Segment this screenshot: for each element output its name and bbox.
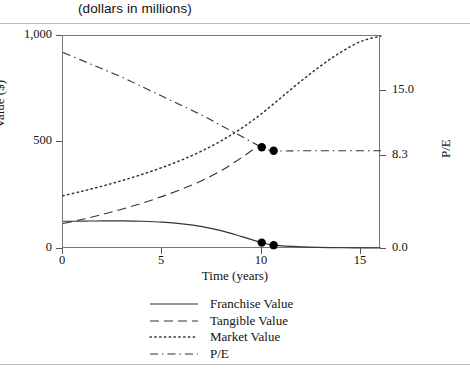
y2-tick-15: [380, 90, 386, 91]
plot-area: [62, 35, 380, 248]
series-line-market-value: [63, 36, 381, 196]
legend-item-franchise-value: Franchise Value: [148, 296, 293, 313]
chart-figure: (dollars in millions) 1,000 500 0 15.0 8…: [0, 0, 470, 371]
x-axis-label: Time (years): [0, 268, 470, 284]
y-ticklabel-1000: 1,000: [0, 27, 52, 42]
legend-item-pe: P/E: [148, 346, 293, 363]
y2-tick-83: [380, 155, 386, 156]
legend-swatch-dotted-icon: [148, 330, 200, 344]
y2-tick-0: [380, 248, 386, 249]
y2-axis-label: P/E: [438, 139, 454, 158]
y2-ticklabel-0: 0.0: [392, 240, 408, 255]
legend-swatch-dashed-icon: [148, 314, 200, 328]
y2-ticklabel-83: 8.3: [392, 147, 408, 162]
bottom-divider: [0, 364, 470, 365]
legend-label-market-value: Market Value: [210, 329, 280, 345]
x-ticklabel-15: 15: [340, 253, 380, 268]
y-tick-1000: [56, 35, 62, 36]
data-point-franchise-marker-2: [269, 241, 277, 249]
x-ticklabel-0: 0: [42, 253, 82, 268]
legend-label-franchise-value: Franchise Value: [210, 296, 293, 312]
plot-lines: [63, 36, 381, 249]
series-line-franchise-value: [63, 221, 381, 248]
y2-ticklabel-15: 15.0: [392, 82, 414, 97]
chart-title: (dollars in millions): [78, 1, 192, 16]
top-divider: [0, 23, 470, 24]
legend-item-market-value: Market Value: [148, 329, 293, 346]
chart-legend: Franchise Value Tangible Value Market Va…: [148, 296, 293, 362]
y-tick-500: [56, 141, 62, 142]
x-ticklabel-10: 10: [241, 253, 281, 268]
y-axis-label: Value ($): [0, 80, 8, 128]
data-point-pe-marker-2: [269, 147, 277, 155]
series-line-p-e: [63, 53, 381, 151]
data-point-pe-marker-1: [258, 143, 266, 151]
legend-swatch-solid-icon: [148, 297, 200, 311]
x-ticklabel-5: 5: [141, 253, 181, 268]
legend-label-tangible-value: Tangible Value: [210, 313, 288, 329]
legend-item-tangible-value: Tangible Value: [148, 313, 293, 330]
legend-label-pe: P/E: [210, 346, 229, 362]
y-ticklabel-500: 500: [0, 133, 52, 148]
series-line-tangible-value: [63, 149, 254, 224]
data-point-franchise-marker-1: [258, 238, 266, 246]
legend-swatch-dashdot-icon: [148, 347, 200, 361]
